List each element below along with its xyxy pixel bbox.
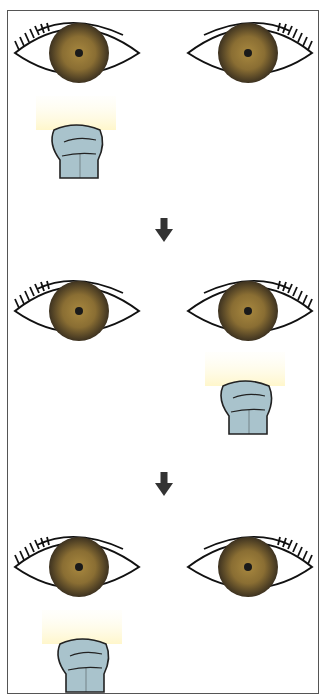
swinging-flashlight-diagram bbox=[0, 0, 328, 698]
left-eye-icon bbox=[15, 23, 139, 83]
right-eye-icon bbox=[188, 281, 312, 341]
right-eye-icon bbox=[188, 23, 312, 83]
left-eye-icon bbox=[15, 281, 139, 341]
right-eye-icon bbox=[188, 537, 312, 597]
down-arrow-icon bbox=[155, 218, 173, 242]
flashlight-icon bbox=[36, 96, 116, 178]
flashlight-icon bbox=[42, 610, 122, 692]
down-arrow-icon bbox=[155, 472, 173, 496]
left-eye-icon bbox=[15, 537, 139, 597]
panel-step-1 bbox=[15, 23, 312, 178]
panel-step-2 bbox=[15, 281, 312, 434]
flashlight-icon bbox=[205, 352, 285, 434]
panel-step-3 bbox=[15, 537, 312, 692]
